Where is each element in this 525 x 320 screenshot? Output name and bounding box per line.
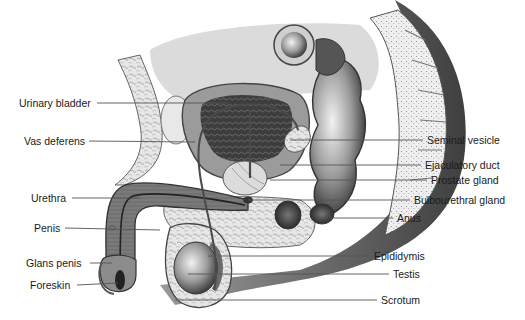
label-testis: Testis — [393, 268, 420, 280]
rectum — [310, 59, 365, 215]
label-scrotum: Scrotum — [381, 294, 420, 306]
label-bulbourethral-gland: Bulbourethral gland — [414, 194, 505, 206]
anatomy-diagram: Urinary bladder Vas deferens Urethra Pen… — [0, 0, 525, 320]
label-penis: Penis — [34, 222, 60, 234]
prostate-gland — [223, 161, 267, 195]
urethral-opening — [115, 270, 125, 290]
label-foreskin: Foreskin — [30, 279, 70, 291]
anus — [310, 204, 334, 224]
label-urethra: Urethra — [31, 192, 66, 204]
label-seminal-vesicle: Seminal vesicle — [427, 134, 500, 146]
abdominal-wall — [115, 55, 162, 185]
bulb-shadow — [275, 201, 301, 229]
label-prostate-gland: Prostate gland — [431, 174, 499, 186]
label-glans-penis: Glans penis — [26, 257, 81, 269]
label-epididymis: Epididymis — [374, 250, 425, 262]
label-ejaculatory-duct: Ejaculatory duct — [425, 159, 500, 171]
label-vas-deferens: Vas deferens — [24, 135, 85, 147]
label-anus: Anus — [397, 212, 421, 224]
label-urinary-bladder: Urinary bladder — [19, 97, 91, 109]
intestine-lumen — [281, 32, 307, 58]
testis — [174, 242, 218, 294]
